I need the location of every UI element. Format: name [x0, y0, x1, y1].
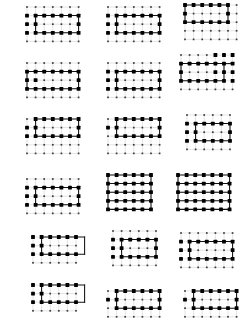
highlight-node — [31, 300, 35, 304]
highlight-node — [106, 182, 110, 186]
highlight-node — [120, 246, 124, 250]
background-node — [150, 23, 152, 25]
highlight-node — [34, 14, 38, 18]
background-node — [61, 62, 63, 64]
highlight-node — [68, 186, 72, 190]
background-node — [43, 144, 45, 146]
highlight-node — [132, 70, 136, 74]
highlight-node — [106, 22, 110, 26]
background-node — [61, 23, 63, 25]
highlight-node — [106, 207, 110, 211]
highlight-node — [34, 70, 38, 74]
background-node — [195, 114, 197, 116]
background-node — [52, 97, 54, 99]
lattice-panel — [24, 116, 82, 156]
background-node — [189, 54, 191, 56]
highlight-node — [34, 78, 38, 82]
highlight-node — [217, 3, 221, 7]
background-node — [107, 62, 109, 64]
background-node — [26, 6, 28, 8]
highlight-node — [183, 3, 187, 7]
highlight-node — [231, 248, 235, 252]
highlight-node — [31, 235, 35, 239]
background-grid — [108, 291, 160, 317]
highlight-node — [228, 190, 232, 194]
background-node — [58, 310, 60, 312]
highlight-node — [59, 117, 63, 121]
highlight-node — [226, 20, 230, 24]
highlight-node — [59, 31, 63, 35]
highlight-node — [179, 62, 183, 66]
highlight-node — [185, 199, 189, 203]
highlight-node — [183, 20, 187, 24]
lattice-canvas — [182, 288, 240, 320]
background-grid — [187, 115, 230, 149]
highlight-node — [106, 126, 110, 130]
background-node — [35, 178, 37, 180]
highlight-node — [31, 283, 35, 287]
background-node — [43, 79, 45, 81]
highlight-node — [140, 199, 144, 203]
highlight-node — [115, 173, 119, 177]
highlight-node — [219, 199, 223, 203]
highlight-node — [74, 300, 78, 304]
highlight-node — [40, 244, 44, 248]
highlight-node — [149, 289, 153, 293]
highlight-node — [132, 207, 136, 211]
highlight-node — [202, 207, 206, 211]
background-node-set — [32, 284, 77, 311]
background-node — [212, 149, 214, 151]
highlight-node — [176, 182, 180, 186]
highlight-node — [219, 122, 223, 126]
highlight-node — [149, 70, 153, 74]
highlight-node — [106, 14, 110, 18]
background-node — [69, 178, 71, 180]
background-node — [193, 316, 195, 318]
background-node — [41, 310, 43, 312]
highlight-node — [219, 182, 223, 186]
highlight-node — [196, 240, 200, 244]
highlight-node — [25, 31, 29, 35]
highlight-node — [193, 182, 197, 186]
highlight-node — [132, 117, 136, 121]
highlight-node — [74, 283, 78, 287]
highlight-node — [137, 255, 141, 259]
highlight-node — [158, 306, 162, 310]
highlight-node — [40, 300, 44, 304]
highlight-node — [31, 252, 35, 256]
highlight-node — [202, 182, 206, 186]
lattice-canvas — [182, 2, 240, 42]
background-node — [203, 114, 205, 116]
background-node — [147, 230, 149, 232]
background-grid — [33, 285, 76, 311]
highlight-node — [179, 240, 183, 244]
highlight-node — [115, 78, 119, 82]
highlight-node — [210, 207, 214, 211]
lattice-canvas — [105, 116, 163, 156]
highlight-node — [42, 87, 46, 91]
highlight-node — [34, 87, 38, 91]
highlight-node — [68, 134, 72, 138]
highlight-node — [202, 199, 206, 203]
background-node — [124, 97, 126, 99]
highlight-node — [25, 78, 29, 82]
highlight-node — [115, 182, 119, 186]
highlight-node — [158, 134, 162, 138]
background-node — [124, 153, 126, 155]
highlight-node — [77, 117, 81, 121]
highlight-node — [196, 79, 200, 83]
highlight-node — [25, 203, 29, 207]
highlight-node — [158, 78, 162, 82]
background-node — [75, 245, 77, 247]
background-node — [49, 245, 51, 247]
highlight-node — [132, 306, 136, 310]
highlight-node — [77, 126, 81, 130]
background-node — [61, 153, 63, 155]
highlight-node — [106, 87, 110, 91]
background-node — [124, 299, 126, 301]
highlight-node — [158, 117, 162, 121]
highlight-node — [123, 70, 127, 74]
background-node — [129, 265, 131, 267]
background-node — [210, 299, 212, 301]
highlight-node — [205, 240, 209, 244]
